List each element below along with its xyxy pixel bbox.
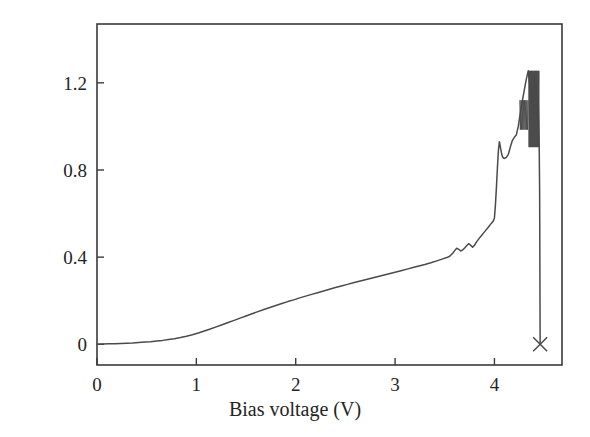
x-tick-label: 2 xyxy=(291,375,301,394)
y-tick-label: 0.4 xyxy=(35,248,87,267)
x-tick-label: 1 xyxy=(192,375,202,394)
plot-canvas xyxy=(0,0,590,437)
y-tick-label: 1.2 xyxy=(35,73,87,92)
x-axis-title: Bias voltage (V) xyxy=(0,398,590,421)
x-tick-label: 3 xyxy=(390,375,400,394)
x-tick-label: 4 xyxy=(490,375,500,394)
plot-frame xyxy=(97,24,562,365)
x-tick-label: 0 xyxy=(92,375,102,394)
y-tick-label: 0.8 xyxy=(35,160,87,179)
axis-ticks xyxy=(97,83,494,365)
iv-curve-figure: 00.40.81.2 01234 Bias voltage (V) Curren… xyxy=(0,0,590,437)
data-curve xyxy=(97,71,540,344)
y-tick-label: 0 xyxy=(35,335,87,354)
